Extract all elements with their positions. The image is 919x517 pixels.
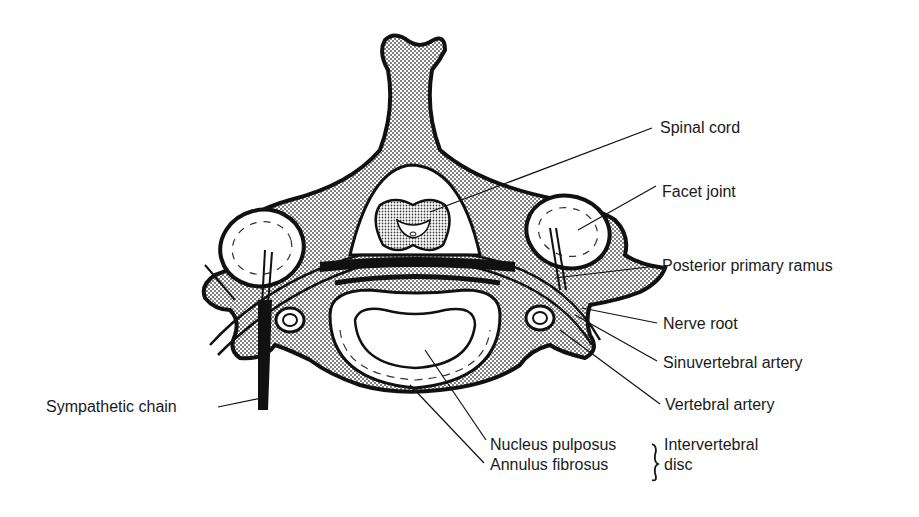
label-facet-joint: Facet joint bbox=[662, 183, 736, 201]
spinal-cord bbox=[376, 200, 450, 250]
label-intervertebral: Intervertebral bbox=[664, 436, 758, 454]
label-nucleus-pulposus: Nucleus pulposus bbox=[490, 436, 616, 454]
label-annulus-fibrosus: Annulus fibrosus bbox=[490, 456, 608, 474]
label-sinuvertebral-artery: Sinuvertebral artery bbox=[663, 354, 803, 372]
label-vertebral-artery: Vertebral artery bbox=[665, 396, 774, 414]
label-disc: disc bbox=[664, 456, 692, 474]
label-posterior-primary-ramus: Posterior primary ramus bbox=[662, 257, 833, 275]
label-spinal-cord: Spinal cord bbox=[660, 119, 740, 137]
sympathetic-chain bbox=[258, 300, 272, 410]
label-sympathetic-chain: Sympathetic chain bbox=[46, 398, 177, 416]
vertebral-artery-right bbox=[526, 306, 554, 330]
disc-brace bbox=[652, 444, 658, 480]
label-nerve-root: Nerve root bbox=[663, 315, 738, 333]
vertebral-artery-left bbox=[276, 308, 304, 332]
